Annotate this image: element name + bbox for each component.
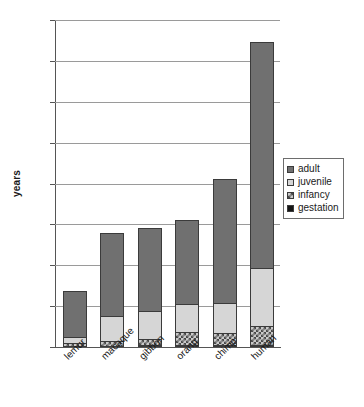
bar-gibbon [138,228,162,347]
gridline [55,102,280,103]
bar-segment-chimp-adult [214,180,236,303]
light-gray-swatch [287,179,294,186]
gridline [55,306,280,307]
y-axis-tick [50,143,55,144]
y-axis-tick [50,184,55,185]
bar-segment-orang-juvenile [176,304,198,332]
x-axis-line [55,347,281,348]
legend-item-juvenile: juvenile [287,176,339,188]
y-axis-tick [50,265,55,266]
legend-label: gestation [298,203,339,213]
y-axis-tick [50,347,55,348]
plot-area [55,20,280,347]
gridline [55,224,280,225]
gridline [55,184,280,185]
bar-chimp [213,179,237,347]
gridline [55,143,280,144]
gridline [55,265,280,266]
y-axis-title: years [11,154,22,214]
dark-gray-swatch [287,166,294,173]
bar-orang [175,220,199,347]
gridline [55,61,280,62]
bar-segment-chimp-juvenile [214,303,236,332]
bar-segment-orang-adult [176,221,198,304]
bar-segment-human-juvenile [251,268,273,326]
bar-segment-gibbon-adult [139,229,161,311]
stacked-bar-chart: years 01020304050607080 lemurmacaquegibb… [0,0,364,407]
legend-item-infancy: infancy [287,189,339,201]
y-axis-tick [50,20,55,21]
chart-legend: adultjuvenileinfancygestation [283,158,344,219]
bar-segment-human-adult [251,43,273,268]
legend-item-adult: adult [287,163,339,175]
legend-label: juvenile [298,177,332,187]
black-swatch [287,205,294,212]
bar-segment-lemur-adult [64,292,86,337]
y-axis-tick [50,224,55,225]
y-axis-tick [50,61,55,62]
y-axis-tick [50,306,55,307]
bar-segment-macaque-adult [101,234,123,316]
y-axis-tick [50,102,55,103]
legend-label: infancy [298,190,330,200]
legend-item-gestation: gestation [287,202,339,214]
hatched-swatch [287,192,294,199]
bar-human [250,42,274,347]
gridline [55,20,280,21]
bar-macaque [100,233,124,347]
bar-lemur [63,291,87,347]
legend-label: adult [298,164,320,174]
